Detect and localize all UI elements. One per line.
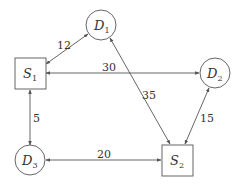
edge-label-s1-d2: 30 [102, 61, 116, 74]
edge-label-d2-s2: 15 [200, 112, 214, 125]
edge-d1-s2 [110, 38, 170, 144]
edge-label-d1-s2: 35 [142, 89, 156, 102]
network-diagram: 12 30 5 35 15 20 D1 S1 D2 D3 S2 [0, 0, 243, 184]
node-d1: D1 [86, 10, 116, 40]
node-s1: S1 [15, 58, 46, 89]
node-s2: S2 [162, 145, 193, 176]
edge-label-s1-d1: 12 [57, 39, 71, 52]
node-d3: D3 [15, 145, 45, 175]
edge-label-d3-s2: 20 [97, 148, 111, 161]
node-d2: D2 [200, 58, 230, 88]
edge-label-s1-d3: 5 [33, 112, 40, 125]
